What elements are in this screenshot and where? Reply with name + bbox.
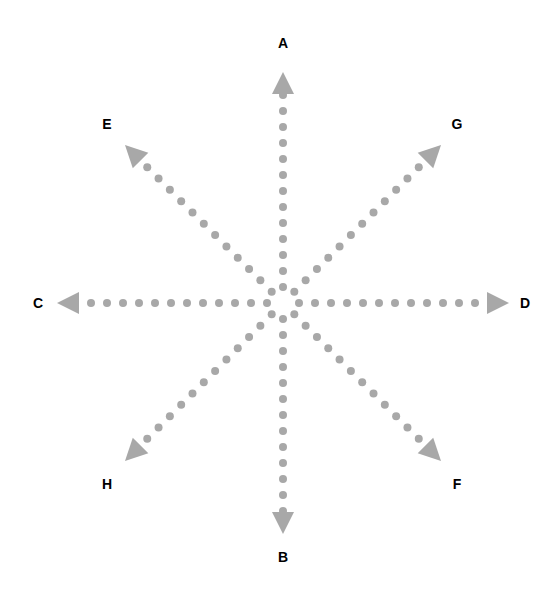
ray-dot	[381, 401, 389, 409]
ray-dot	[279, 459, 287, 467]
ray-dot	[200, 220, 208, 228]
ray-dot	[247, 299, 255, 307]
ray-dot	[166, 412, 174, 420]
ray-label-h: H	[102, 477, 112, 491]
ray-dot	[279, 283, 287, 291]
ray-dot	[234, 254, 242, 262]
ray-label-g: G	[452, 117, 463, 131]
arrowhead-icon	[272, 72, 294, 94]
ray-dot	[347, 231, 355, 239]
ray-d	[295, 292, 509, 314]
ray-dot	[455, 299, 463, 307]
ray-dot	[279, 427, 287, 435]
ray-dot	[143, 435, 151, 443]
ray-dot	[290, 288, 298, 296]
ray-dot	[290, 310, 298, 318]
arrowhead-icon	[272, 512, 294, 534]
ray-dot	[279, 475, 287, 483]
ray-dot	[295, 299, 303, 307]
radial-direction-diagram: AGDFBHCE	[0, 0, 560, 597]
ray-dot	[200, 378, 208, 386]
ray-dot	[370, 208, 378, 216]
ray-dot	[279, 123, 287, 131]
ray-dot	[313, 265, 321, 273]
ray-dot	[407, 299, 415, 307]
ray-dot	[155, 175, 163, 183]
rays-group	[57, 72, 509, 534]
ray-dot	[215, 299, 223, 307]
ray-label-a: A	[278, 36, 288, 50]
ray-g	[290, 145, 441, 296]
ray-dot	[151, 299, 159, 307]
ray-dot	[391, 299, 399, 307]
ray-dot	[177, 197, 185, 205]
ray-dot	[302, 322, 310, 330]
ray-dot	[392, 186, 400, 194]
ray-dot	[279, 411, 287, 419]
ray-dot	[336, 356, 344, 364]
ray-dot	[279, 251, 287, 259]
ray-dot	[177, 401, 185, 409]
ray-dot	[324, 344, 332, 352]
ray-dot	[188, 208, 196, 216]
ray-dot	[375, 299, 383, 307]
ray-dot	[279, 219, 287, 227]
ray-dot	[279, 187, 287, 195]
ray-dot	[279, 139, 287, 147]
ray-label-d: D	[520, 296, 530, 310]
ray-dot	[183, 299, 191, 307]
ray-label-f: F	[453, 477, 462, 491]
ray-dot	[231, 299, 239, 307]
ray-dot	[439, 299, 447, 307]
ray-dot	[135, 299, 143, 307]
ray-dot	[279, 107, 287, 115]
ray-dot	[415, 163, 423, 171]
ray-dot	[279, 235, 287, 243]
arrowhead-icon	[57, 292, 79, 314]
ray-dot	[222, 242, 230, 250]
ray-dot	[103, 299, 111, 307]
ray-dot	[392, 412, 400, 420]
ray-h	[125, 310, 276, 461]
ray-dot	[359, 299, 367, 307]
ray-dot	[358, 220, 366, 228]
ray-dot	[199, 299, 207, 307]
ray-b	[272, 315, 294, 534]
ray-dot	[245, 265, 253, 273]
ray-c	[57, 292, 271, 314]
ray-dot	[211, 231, 219, 239]
ray-dot	[324, 254, 332, 262]
ray-dot	[403, 423, 411, 431]
ray-dot	[279, 347, 287, 355]
ray-dot	[358, 378, 366, 386]
ray-dot	[313, 333, 321, 341]
ray-dot	[256, 322, 264, 330]
ray-dot	[143, 163, 151, 171]
ray-dot	[327, 299, 335, 307]
ray-dot	[268, 310, 276, 318]
ray-dot	[279, 155, 287, 163]
ray-dot	[234, 344, 242, 352]
ray-a	[272, 72, 294, 291]
ray-dot	[279, 363, 287, 371]
ray-dot	[279, 491, 287, 499]
ray-dot	[381, 197, 389, 205]
ray-dot	[166, 186, 174, 194]
ray-f	[290, 310, 441, 461]
ray-dot	[245, 333, 253, 341]
ray-dot	[370, 390, 378, 398]
ray-dot	[222, 356, 230, 364]
ray-dot	[167, 299, 175, 307]
ray-dot	[311, 299, 319, 307]
ray-dot	[471, 299, 479, 307]
ray-label-e: E	[102, 117, 111, 131]
ray-dot	[279, 395, 287, 403]
ray-canvas	[0, 0, 560, 597]
ray-dot	[279, 315, 287, 323]
ray-label-b: B	[278, 550, 288, 564]
ray-dot	[211, 367, 219, 375]
ray-dot	[423, 299, 431, 307]
ray-dot	[263, 299, 271, 307]
ray-dot	[415, 435, 423, 443]
ray-dot	[279, 331, 287, 339]
